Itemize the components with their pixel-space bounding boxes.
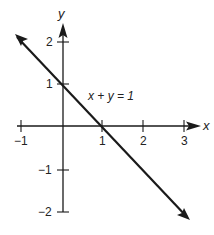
- equation-label: x + y = 1: [87, 89, 134, 103]
- y-tick-label-neg1: −1: [38, 163, 52, 177]
- coordinate-plane: y x −1 1 2 3 2 1 −1 −2 x + y = 1: [0, 0, 214, 235]
- y-tick-label-neg2: −2: [38, 205, 52, 219]
- x-axis: [17, 120, 201, 132]
- line-x-plus-y-equals-1: [15, 34, 190, 220]
- y-tick-label-2: 2: [46, 35, 53, 49]
- y-axis: [57, 23, 69, 212]
- line-arrow-upper-left-icon: [15, 34, 28, 46]
- y-axis-label: y: [57, 6, 66, 21]
- x-axis-label: x: [202, 118, 210, 133]
- x-tick-label-neg1: −1: [14, 134, 28, 148]
- y-tick-label-1: 1: [46, 77, 53, 91]
- x-tick-label-2: 2: [140, 134, 147, 148]
- x-tick-label-3: 3: [181, 134, 188, 148]
- x-tick-label-1: 1: [99, 134, 106, 148]
